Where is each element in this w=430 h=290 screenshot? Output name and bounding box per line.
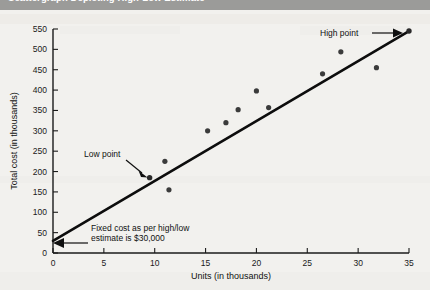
fixed-cost-label-line2: estimate is $30,000: [91, 233, 165, 243]
low-point-arrow-shaft: [126, 160, 142, 173]
y-tick-label: 150: [33, 187, 47, 197]
y-tick-label: 300: [33, 126, 47, 136]
y-tick-label: 200: [33, 167, 47, 177]
data-point-low-point: [147, 175, 152, 180]
y-tick-label: 0: [42, 248, 47, 258]
fixed-cost-label-line1: Fixed cost as per high/low: [91, 223, 190, 233]
data-point: [266, 105, 271, 110]
scatter-chart: 050100150200250300350400450500550 051015…: [0, 0, 430, 290]
high-low-trendline: [53, 31, 409, 241]
data-point: [205, 128, 210, 133]
y-tick-label: 550: [33, 24, 47, 34]
scattergraph-figure: Scattergraph Depicting High-Low Estimate…: [0, 0, 430, 290]
y-tick-label: 100: [33, 207, 47, 217]
data-point: [223, 120, 228, 125]
data-point: [166, 187, 171, 192]
y-tick-label: 50: [38, 228, 48, 238]
data-point-high-point: [406, 28, 411, 33]
x-tick-label: 35: [404, 258, 414, 268]
x-tick-label: 5: [101, 258, 106, 268]
x-tick-label: 15: [201, 258, 211, 268]
data-point: [162, 159, 167, 164]
y-tick-label: 500: [33, 44, 47, 54]
y-axis-title: Total cost (in thousands): [9, 92, 19, 190]
x-tick-label: 10: [150, 258, 160, 268]
x-tick-label: 25: [303, 258, 313, 268]
high-point-annotation: High point: [320, 28, 403, 38]
x-tick-label: 0: [51, 258, 56, 268]
data-point: [374, 65, 379, 70]
fixed-cost-annotation: Fixed cost as per high/low estimate is $…: [53, 223, 190, 248]
x-axis-ticks: 05101520253035: [51, 248, 414, 268]
x-axis-title: Units (in thousands): [191, 271, 271, 281]
high-point-label: High point: [320, 28, 359, 38]
data-point: [254, 88, 259, 93]
low-point-annotation: Low point: [84, 149, 148, 178]
y-tick-label: 350: [33, 105, 47, 115]
data-point: [236, 107, 241, 112]
y-axis-ticks: 050100150200250300350400450500550: [33, 24, 58, 258]
data-point: [338, 49, 343, 54]
y-tick-label: 250: [33, 146, 47, 156]
y-tick-label: 400: [33, 85, 47, 95]
x-tick-label: 20: [252, 258, 262, 268]
data-point: [320, 71, 325, 76]
y-tick-label: 450: [33, 65, 47, 75]
x-tick-label: 30: [353, 258, 363, 268]
low-point-label: Low point: [84, 149, 121, 159]
